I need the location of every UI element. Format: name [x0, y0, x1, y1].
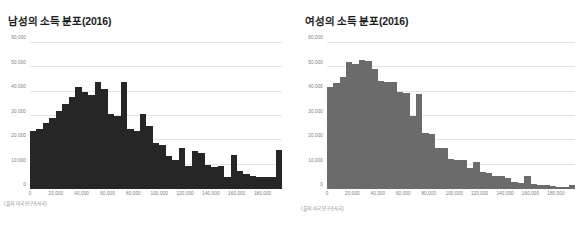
histogram-bars-female	[327, 43, 575, 189]
x-axis-tick-label: 120,000	[176, 191, 193, 196]
x-axis-tick-label: 120,000	[471, 191, 488, 196]
x-axis-tick-label: 100,000	[446, 191, 463, 196]
x-axis-male: 020,00040,00060,00080,000100,000120,0001…	[30, 189, 282, 201]
y-axis-tick-label: 60,000	[11, 35, 26, 40]
x-axis-tick-label: 140,000	[496, 191, 513, 196]
x-axis-tick-label: 20,000	[345, 191, 360, 196]
y-axis-tick-label: 60,000	[308, 35, 323, 40]
plot-area-male: 60,00050,00040,00030,00020,00010,0000	[30, 43, 282, 189]
y-axis-tick-label: 50,000	[11, 59, 26, 64]
histogram-bars-male	[30, 43, 282, 189]
y-axis-tick-label: 50,000	[308, 59, 323, 64]
source-note-male: (출처: 미국 인구조사국)	[4, 200, 47, 206]
x-axis-tick-label: 160,000	[522, 191, 539, 196]
x-axis-tick-label: 180,000	[254, 191, 271, 196]
y-axis-tick-label: 40,000	[308, 84, 323, 89]
y-axis-tick-label: 30,000	[308, 108, 323, 113]
x-axis-tick-label: 0	[29, 191, 32, 196]
y-axis-tick-label: 0	[320, 182, 323, 187]
page-title-male: 남성의 소득 분포(2016)	[8, 13, 111, 28]
y-axis-tick-label: 10,000	[11, 157, 26, 162]
plot-area-female: 60,00050,00040,00030,00020,00010,0000	[327, 43, 575, 189]
x-axis-tick-label: 80,000	[421, 191, 436, 196]
page-title-female: 여성의 소득 분포(2016)	[305, 13, 408, 28]
x-axis-tick-label: 60,000	[396, 191, 411, 196]
charts-page: 남성의 소득 분포(2016) 60,00050,00040,00030,000…	[0, 0, 583, 233]
x-axis-tick-label: 20,000	[49, 191, 64, 196]
x-axis-female: 020,00040,00060,00080,000100,000120,0001…	[327, 189, 575, 201]
y-axis-tick-label: 30,000	[11, 108, 26, 113]
histogram-bar	[276, 150, 282, 189]
y-axis-tick-label: 10,000	[308, 157, 323, 162]
x-axis-tick-label: 180,000	[547, 191, 564, 196]
x-axis-tick-label: 160,000	[228, 191, 245, 196]
x-axis-tick-label: 140,000	[202, 191, 219, 196]
x-axis-tick-label: 60,000	[100, 191, 115, 196]
x-axis-tick-label: 40,000	[371, 191, 386, 196]
y-axis-tick-label: 40,000	[11, 84, 26, 89]
x-axis-tick-label: 100,000	[151, 191, 168, 196]
y-axis-tick-label: 20,000	[11, 133, 26, 138]
chart-panel-male: 남성의 소득 분포(2016) 60,00050,00040,00030,000…	[0, 0, 290, 233]
y-axis-tick-label: 20,000	[308, 133, 323, 138]
source-note-female: (출처: 미국 인구조사국)	[301, 205, 344, 211]
x-axis-tick-label: 40,000	[74, 191, 89, 196]
x-axis-tick-label: 80,000	[126, 191, 141, 196]
x-axis-tick-label: 0	[326, 191, 329, 196]
chart-panel-female: 여성의 소득 분포(2016) 60,00050,00040,00030,000…	[293, 0, 583, 233]
y-axis-tick-label: 0	[23, 182, 26, 187]
